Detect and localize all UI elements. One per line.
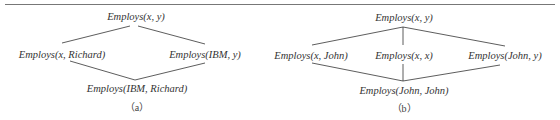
node-b-bottom: Employs(John, John) (359, 85, 448, 96)
edge-a-left-bottom (70, 61, 135, 80)
node-a-right: Employs(IBM, y) (169, 49, 241, 60)
edge-b-left-bottom (312, 63, 403, 81)
caption-a: （a） (125, 99, 149, 114)
node-a-top: Employs(x, y) (107, 11, 165, 22)
edge-a-right-bottom (135, 63, 205, 80)
edge-b-top-left (312, 27, 403, 45)
node-b-right: Employs(John, y) (468, 50, 541, 61)
edge-a-top-left (62, 26, 130, 43)
edge-b-top-right (403, 27, 505, 46)
node-a-left: Employs(x, Richard) (19, 49, 106, 60)
caption-b: （b） (392, 100, 417, 115)
edge-b-right-bottom (403, 65, 500, 81)
node-a-bottom: Employs(IBM, Richard) (87, 83, 188, 94)
node-b-middle: Employs(x, x) (375, 50, 433, 61)
edge-a-top-right (138, 26, 205, 44)
node-b-top: Employs(x, y) (375, 12, 433, 23)
node-b-left: Employs(x, John) (274, 50, 347, 61)
